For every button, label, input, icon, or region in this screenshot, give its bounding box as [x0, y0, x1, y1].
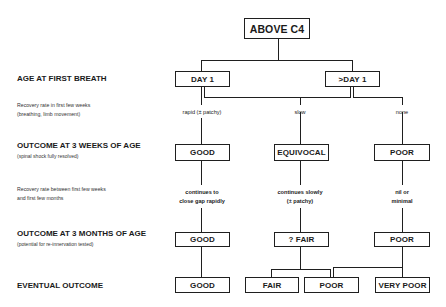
node-day-1: DAY 1 [175, 71, 230, 87]
node-3-weeks-equivocal: EQUIVOCAL [274, 144, 329, 161]
row-label-outcome-3-months: OUTCOME AT 3 MONTHS OF AGE [17, 229, 146, 238]
node-label: POOR [320, 281, 344, 290]
branch-continues-slowly: continues slowly (± patchy) [277, 188, 322, 206]
node-eventual-fair: FAIR [245, 277, 299, 293]
node-3-months-fair: ? FAIR [274, 232, 329, 247]
prognosis-flowchart: ABOVE C4 AGE AT FIRST BREATH Recovery ra… [0, 0, 446, 307]
node-label: ABOVE C4 [250, 23, 304, 35]
node-label: POOR [390, 148, 414, 157]
branch-line: minimal [391, 197, 412, 206]
branch-line: (± patchy) [277, 197, 322, 206]
node-label: DAY 1 [191, 75, 214, 84]
node-label: FAIR [263, 281, 282, 290]
row-desc-recovery-weeks-line1: Recovery rate in first few weeks [17, 101, 90, 110]
node-label: >DAY 1 [339, 75, 367, 84]
row-label-outcome-3-weeks: OUTCOME AT 3 WEEKS OF AGE [17, 141, 141, 150]
branch-line: continues to [179, 188, 225, 197]
row-desc-recovery-months-line1: Recovery rate between first few weeks [17, 185, 106, 194]
node-label: GOOD [190, 148, 215, 157]
branch-continues-rapidly: continues to close gap rapidly [179, 188, 225, 206]
node-label: EQUIVOCAL [277, 148, 325, 157]
row-sub-outcome-3-weeks: (spinal shock fully resolved) [17, 152, 78, 161]
node-label: POOR [390, 235, 414, 244]
node-3-weeks-good: GOOD [175, 144, 230, 161]
branch-line: nil or [391, 188, 412, 197]
node-label: ? FAIR [289, 235, 315, 244]
branch-rapid: rapid (± patchy) [183, 108, 222, 117]
node-label: VERY POOR [378, 281, 426, 290]
node-eventual-poor: POOR [304, 277, 359, 293]
branch-nil-or-minimal: nil or minimal [391, 188, 412, 206]
node-eventual-good: GOOD [175, 277, 230, 293]
branch-line: continues slowly [277, 188, 322, 197]
branch-line: close gap rapidly [179, 197, 225, 206]
node-3-months-good: GOOD [175, 232, 230, 247]
row-sub-outcome-3-months: (potential for re-innervation tested) [17, 240, 93, 249]
branch-none: none [396, 108, 408, 117]
node-after-day-1: >DAY 1 [325, 71, 380, 87]
branch-slow: slow [294, 108, 305, 117]
row-label-eventual-outcome: EVENTUAL OUTCOME [17, 281, 103, 290]
node-3-weeks-poor: POOR [374, 144, 430, 161]
row-desc-recovery-months-line2: and first few months [17, 194, 63, 203]
node-3-months-poor: POOR [374, 232, 430, 247]
node-above-c4: ABOVE C4 [244, 18, 310, 39]
node-label: GOOD [190, 235, 215, 244]
node-eventual-very-poor: VERY POOR [375, 277, 430, 293]
row-label-age-first-breath: AGE AT FIRST BREATH [17, 74, 107, 83]
node-label: GOOD [190, 281, 215, 290]
row-desc-recovery-weeks-line2: (breathing, limb movement) [17, 110, 80, 119]
